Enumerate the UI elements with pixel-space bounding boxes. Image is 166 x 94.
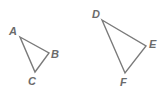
triangle-def [102, 20, 146, 73]
vertex-label-f: F [120, 76, 127, 88]
triangle-abc [20, 37, 49, 72]
vertex-label-b: B [51, 48, 59, 60]
triangles-diagram: A B C D E F [0, 0, 166, 94]
vertex-label-d: D [92, 8, 100, 20]
vertex-label-e: E [149, 38, 157, 50]
vertex-label-a: A [8, 25, 17, 37]
vertex-label-c: C [28, 75, 37, 87]
